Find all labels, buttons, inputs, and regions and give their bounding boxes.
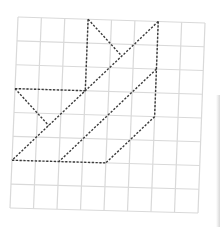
dashed-figure [12, 19, 158, 163]
dashed-segment [15, 89, 49, 126]
grid-diagram [0, 0, 220, 227]
dashed-segment [88, 19, 122, 56]
page-edge-shadow [216, 95, 220, 227]
